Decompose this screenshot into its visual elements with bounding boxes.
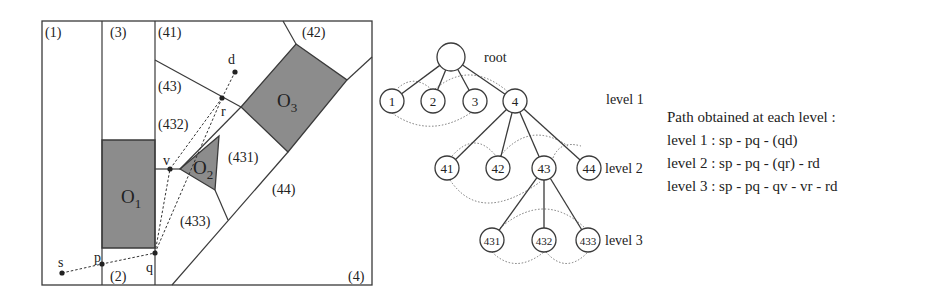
tree-node-label: 3 xyxy=(472,94,479,109)
path-level-3: level 3 : sp - pq - qv - vr - rd xyxy=(667,175,837,198)
obstacle-subscript: 1 xyxy=(135,196,142,211)
adjacency-arc xyxy=(546,252,588,264)
region-label: (2) xyxy=(110,269,127,285)
region-boundary xyxy=(347,57,372,80)
path-segment xyxy=(62,253,155,273)
obstacle-subscript: 2 xyxy=(207,167,214,182)
level-label-1: level 1 xyxy=(606,92,644,107)
tree-edge xyxy=(550,178,581,230)
region-label: (44) xyxy=(272,182,296,198)
region-label: (431) xyxy=(228,150,259,166)
region-label: (3) xyxy=(110,25,127,41)
tree-edge xyxy=(438,70,446,90)
level-label-2: level 2 xyxy=(605,161,643,176)
point-label-r: r xyxy=(221,104,226,119)
path-title: Path obtained at each level : xyxy=(667,106,837,129)
adjacency-arc xyxy=(553,145,581,159)
region-label: (4) xyxy=(348,269,365,285)
level-label-3: level 3 xyxy=(605,233,643,248)
tree-node-label: 1 xyxy=(389,94,396,109)
tree-edge xyxy=(524,109,580,160)
point-q xyxy=(152,250,157,255)
region-label: (433) xyxy=(180,214,211,230)
tree-node-root xyxy=(437,43,465,71)
region-label: (432) xyxy=(158,117,189,133)
path-segment xyxy=(222,72,235,98)
tree-node-label: 41 xyxy=(441,161,454,176)
point-label-s: s xyxy=(58,255,63,270)
point-label-p: p xyxy=(94,250,101,265)
point-d xyxy=(232,69,237,74)
tree-edge xyxy=(456,109,507,159)
region-boundary xyxy=(215,190,228,220)
tree-edge xyxy=(499,178,537,231)
region-boundary xyxy=(283,21,296,44)
path-level-1: level 1 : sp - pq - (qd) xyxy=(667,129,837,152)
obstacle-o3 xyxy=(241,44,347,152)
region-label: (41) xyxy=(158,25,182,41)
tree-edge xyxy=(501,113,512,157)
path-level-2: level 2 : sp - pq - (qr) - rd xyxy=(667,152,837,175)
tree-node-label: 433 xyxy=(580,235,597,247)
adjacency-arc xyxy=(392,112,472,126)
tree-node-label: 44 xyxy=(583,161,597,176)
region-label: (1) xyxy=(45,25,62,41)
adjacency-arc xyxy=(452,143,496,156)
tree-node-label: 42 xyxy=(492,161,505,176)
point-label-v: v xyxy=(163,153,170,168)
tree-node-label: 4 xyxy=(512,94,519,109)
root-label: root xyxy=(484,50,507,65)
adjacency-arc xyxy=(492,252,544,264)
tree-node-label: 431 xyxy=(484,235,501,247)
hierarchy-tree: 123441424344431432433rootlevel 1level 2l… xyxy=(380,43,644,264)
point-label-d: d xyxy=(228,52,235,67)
obstacle-subscript: 3 xyxy=(291,100,298,115)
point-r xyxy=(219,95,224,100)
region-label: (42) xyxy=(302,25,326,41)
region-label: (43) xyxy=(158,79,182,95)
point-s xyxy=(59,270,64,275)
point-label-q: q xyxy=(146,260,153,275)
adjacency-arc xyxy=(398,81,431,89)
tree-node-label: 2 xyxy=(430,94,437,109)
path-description: Path obtained at each level : level 1 : … xyxy=(667,106,837,198)
tree-node-label: 432 xyxy=(536,235,553,247)
tree-node-label: 43 xyxy=(538,161,551,176)
tree-edge xyxy=(458,69,470,90)
spatial-map: O1O2O3(1)(3)(41)(42)(43)(432)(431)(44)(4… xyxy=(42,21,372,285)
tree-edge xyxy=(520,112,539,157)
